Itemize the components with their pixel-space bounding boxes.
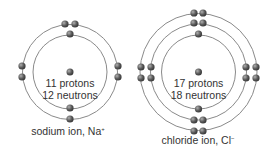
electron xyxy=(66,30,73,37)
chloride-nucleus xyxy=(195,69,202,76)
electron xyxy=(137,74,144,81)
electron xyxy=(195,30,202,37)
sodium-neutrons: 12 neutrons xyxy=(42,89,97,101)
electron xyxy=(147,63,154,70)
electron xyxy=(242,63,249,70)
sodium-ion-model: 11 protons 12 neutrons sodium ion, Na+ xyxy=(18,20,121,137)
chloride-protons: 17 protons xyxy=(174,77,224,89)
sodium-nucleus xyxy=(67,69,74,76)
sodium-label: sodium ion, Na+ xyxy=(31,125,105,137)
chloride-ion-model: 17 protons 18 neutrons chloride ion, Cl− xyxy=(137,9,259,146)
electron xyxy=(190,9,197,16)
sodium-protons: 11 protons xyxy=(46,77,95,89)
electron xyxy=(195,105,202,112)
electron xyxy=(199,116,206,123)
electron xyxy=(114,62,121,69)
electron xyxy=(18,62,25,69)
electron xyxy=(66,115,73,122)
chloride-neutrons: 18 neutrons xyxy=(171,89,226,101)
electron xyxy=(18,73,25,80)
chloride-charge: − xyxy=(231,135,235,141)
sodium-charge: + xyxy=(101,126,105,132)
ion-diagram: 11 protons 12 neutrons sodium ion, Na+ 1… xyxy=(0,0,275,160)
electron xyxy=(190,19,197,26)
electron xyxy=(252,74,259,81)
electron xyxy=(199,19,206,26)
electron xyxy=(147,74,154,81)
electron xyxy=(71,20,78,27)
chloride-label: chloride ion, Cl− xyxy=(162,134,235,146)
electron xyxy=(66,104,73,111)
electron xyxy=(199,9,206,16)
electron xyxy=(61,20,68,27)
electron xyxy=(114,73,121,80)
electron xyxy=(242,74,249,81)
electron xyxy=(252,63,259,70)
electron xyxy=(137,63,144,70)
electron xyxy=(190,116,197,123)
